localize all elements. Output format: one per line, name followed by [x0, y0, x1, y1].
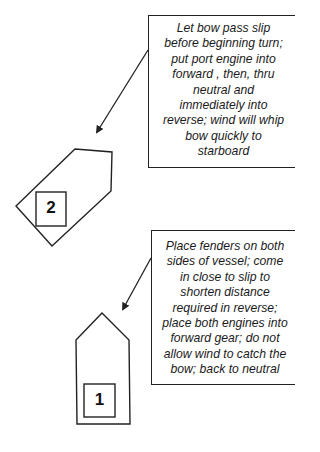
note-line: required in reverse;	[152, 301, 295, 316]
note-line: forward gear; do not	[152, 331, 295, 346]
instruction-note-boat-1: Place fenders on both sides of vessel; c…	[151, 230, 295, 385]
note-line: put port engine into	[149, 52, 295, 67]
boat-1-label: 1	[84, 390, 115, 410]
note-line: neutral and	[149, 83, 295, 98]
arrow-to-boat-1	[123, 258, 151, 309]
note-line: immediately into	[149, 98, 295, 113]
note-line: bow; back to neutral	[152, 362, 295, 377]
note-line: starboard	[149, 144, 295, 159]
note-line: Place fenders on both	[152, 239, 295, 254]
arrow-to-boat-2	[97, 50, 148, 132]
note-line: Let bow pass slip	[149, 21, 295, 36]
note-line: sides of vessel; come	[152, 254, 295, 269]
note-line: before beginning turn;	[149, 36, 295, 51]
boat-2-label: 2	[36, 198, 66, 218]
note-line: place both engines into	[152, 316, 295, 331]
note-line: bow quickly to	[149, 129, 295, 144]
note-line: allow wind to catch the	[152, 347, 295, 362]
note-line: reverse; wind will whip	[149, 113, 295, 128]
note-line: forward , then, thru	[149, 67, 295, 82]
note-line: shorten distance	[152, 285, 295, 300]
instruction-note-boat-2: Let bow pass slip before beginning turn;…	[148, 15, 295, 168]
note-line: in close to slip to	[152, 270, 295, 285]
